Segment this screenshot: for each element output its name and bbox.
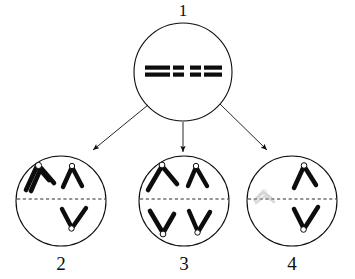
cell-1-label: 1: [168, 2, 198, 19]
cell-3-chromosome-lower-right: [189, 211, 210, 235]
cell-2-membrane: [16, 156, 106, 246]
cell-1-chromosome-pair-right: [190, 66, 222, 77]
chromosome-bar: [204, 66, 222, 70]
cell-4-chromosome-lower-right: [294, 207, 318, 232]
cell-4-label: 4: [277, 254, 307, 273]
cell-4-erased-chromosome-mark: [255, 190, 274, 203]
cell-4-chromosome-upper-right: [294, 163, 316, 188]
centromere: [160, 231, 166, 237]
chromatid-arm: [294, 166, 316, 188]
cell-3-chromosome-upper-right: [188, 163, 207, 186]
centromere: [195, 230, 200, 235]
chromosome-bar: [145, 73, 170, 77]
cell-3-membrane: [139, 156, 229, 246]
chromatid-arm: [294, 207, 318, 229]
cell-division-diagram: 1 2 3 4: [0, 0, 355, 279]
cell-2-group: [16, 156, 106, 246]
centromere: [193, 163, 198, 168]
arrow-group: [93, 104, 267, 152]
cell-4-membrane: [247, 156, 337, 246]
cell-1-membrane: [134, 23, 232, 121]
centromere: [301, 227, 307, 233]
cell-2-chromosome-doubled-upper-left: [26, 162, 54, 191]
centromere: [69, 226, 74, 231]
chromosome-bar: [145, 66, 170, 70]
diagram-canvas: [0, 0, 355, 279]
centromere: [301, 163, 307, 169]
chromatid-arm: [62, 208, 86, 228]
cell-1-group: [134, 23, 232, 121]
cell-3-group: [139, 156, 229, 246]
chromosome-bar: [173, 66, 184, 70]
cell-3-chromosome-lower-left: [150, 211, 174, 237]
chromatid-arm: [63, 167, 82, 187]
centromere: [69, 163, 74, 168]
chromosome-bar: [204, 73, 222, 77]
arrow-1-to-4: [220, 104, 267, 150]
cell-4-group: [247, 156, 337, 246]
cell-2-chromosome-upper-right: [63, 163, 82, 187]
chromosome-bar: [190, 66, 201, 70]
chromatid-arm: [189, 211, 210, 232]
centromere: [159, 162, 165, 168]
cell-1-chromosome-pair-left: [145, 66, 184, 77]
centromere: [35, 162, 41, 168]
cell-2-label: 2: [46, 254, 76, 273]
chromatid-arm: [150, 211, 174, 233]
cell-3-label: 3: [169, 254, 199, 273]
cell-3-chromosome-upper-left: [148, 162, 177, 190]
cell-2-chromosome-lower-right: [62, 208, 86, 231]
chromosome-bar: [190, 73, 201, 77]
chromosome-bar: [173, 73, 184, 77]
chromatid-arm: [188, 167, 207, 186]
arrow-1-to-2: [93, 105, 148, 150]
